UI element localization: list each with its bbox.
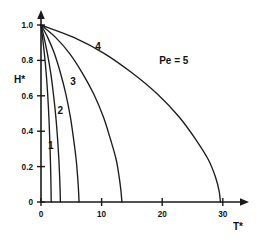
data-curves-group <box>41 25 220 202</box>
y-axis-title: H* <box>14 74 25 85</box>
x-axis-arrow-icon <box>240 198 249 206</box>
x-axis-ticks-group: 0102030 <box>39 198 228 219</box>
chart-plot-area: 00.20.40.60.81.0 0102030 Pe = 54321 H* T… <box>0 0 259 246</box>
x-tick-label: 10 <box>97 210 107 219</box>
y-tick-label: 0.2 <box>22 163 34 172</box>
chart-container: 00.20.40.60.81.0 0102030 Pe = 54321 H* T… <box>0 0 259 246</box>
x-tick-label: 30 <box>218 210 228 219</box>
x-axis-title: T* <box>233 221 243 232</box>
curve-label-1: 1 <box>48 140 54 151</box>
y-tick-label: 0 <box>28 198 33 207</box>
y-tick-label: 0.8 <box>22 56 34 65</box>
curve-label-3: 3 <box>70 76 76 87</box>
y-axis-arrow-icon <box>37 10 45 19</box>
curve-label-pe-5: Pe = 5 <box>159 55 189 66</box>
x-tick-label: 0 <box>39 210 44 219</box>
x-tick-label: 20 <box>158 210 168 219</box>
curve-labels-group: Pe = 54321 <box>48 41 189 151</box>
data-curve-1 <box>41 25 51 202</box>
curve-label-4: 4 <box>95 41 101 52</box>
y-tick-label: 0.4 <box>22 127 34 136</box>
y-tick-label: 1.0 <box>22 21 34 30</box>
y-tick-label: 0.6 <box>22 92 34 101</box>
curve-label-2: 2 <box>58 105 64 116</box>
